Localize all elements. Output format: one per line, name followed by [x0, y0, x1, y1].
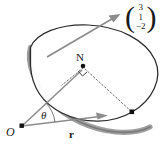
point-N-marker [81, 64, 86, 69]
left-paren: ( [125, 3, 135, 31]
geometry-figure: O N θ r ( 3 1 −2 ) [0, 0, 168, 150]
label-origin: O [6, 126, 15, 138]
label-theta: θ [41, 110, 46, 121]
point-O-marker [20, 124, 24, 128]
vector-components: 3 1 −2 [135, 3, 147, 32]
label-position-vector: r [69, 129, 74, 140]
right-paren: ) [147, 3, 157, 31]
label-point-n: N [76, 52, 84, 63]
normal-vector-column: ( 3 1 −2 ) [125, 3, 157, 32]
vector-component-z: −2 [136, 22, 146, 32]
point-on-plane-marker [130, 110, 135, 115]
